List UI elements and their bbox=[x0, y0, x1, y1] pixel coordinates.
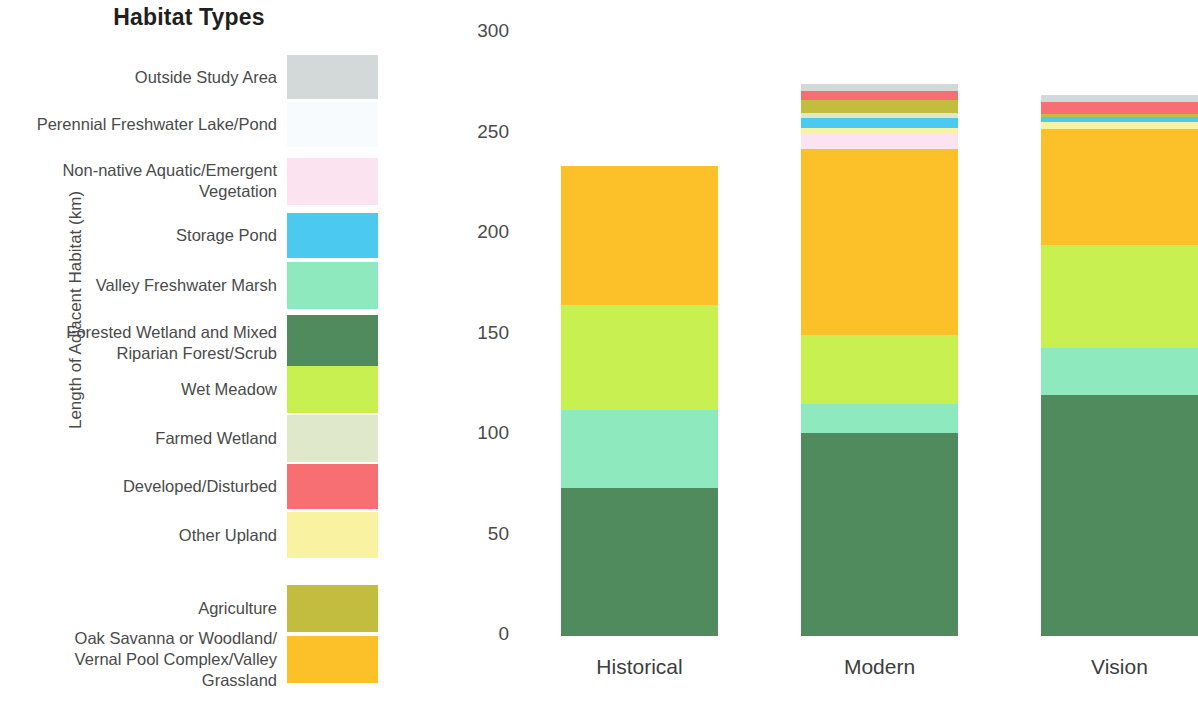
bar-segment[interactable] bbox=[801, 84, 958, 91]
bar-segment[interactable] bbox=[1041, 395, 1198, 636]
bar-segment[interactable] bbox=[801, 100, 958, 113]
bar-segment[interactable] bbox=[801, 149, 958, 335]
bar-segment[interactable] bbox=[1041, 348, 1198, 395]
stacked-bar[interactable] bbox=[1041, 95, 1198, 636]
y-axis-tick-label: 50 bbox=[457, 523, 509, 545]
bar-segment[interactable] bbox=[1041, 102, 1198, 114]
bar-segment[interactable] bbox=[561, 488, 718, 636]
y-axis-tick-label: 100 bbox=[457, 422, 509, 444]
bar-segment[interactable] bbox=[801, 433, 958, 636]
bar-segment[interactable] bbox=[801, 404, 958, 433]
stacked-bar[interactable] bbox=[561, 166, 718, 636]
x-axis-tick-label: Vision bbox=[1041, 655, 1198, 679]
bar-segment[interactable] bbox=[561, 410, 718, 488]
stacked-bar[interactable] bbox=[801, 84, 958, 636]
bar-segment[interactable] bbox=[1041, 129, 1198, 246]
x-axis-tick-label: Historical bbox=[561, 655, 718, 679]
y-axis-tick-label: 250 bbox=[457, 121, 509, 143]
y-axis-tick-label: 150 bbox=[457, 322, 509, 344]
bar-segment[interactable] bbox=[801, 335, 958, 404]
bar-segment[interactable] bbox=[1041, 95, 1198, 102]
x-axis-tick-label: Modern bbox=[801, 655, 958, 679]
bar-segment[interactable] bbox=[561, 166, 718, 306]
y-axis-tick-label: 200 bbox=[457, 221, 509, 243]
y-axis-tick-label: 0 bbox=[457, 623, 509, 645]
bar-segment[interactable] bbox=[1041, 245, 1198, 348]
bar-segment[interactable] bbox=[561, 305, 718, 410]
bar-segment[interactable] bbox=[801, 134, 958, 149]
y-axis-tick-label: 300 bbox=[457, 20, 509, 42]
bar-segment[interactable] bbox=[801, 91, 958, 100]
bar-segment[interactable] bbox=[801, 118, 958, 127]
y-axis-label: Length of Adjacent Habitat (km) bbox=[66, 170, 86, 450]
